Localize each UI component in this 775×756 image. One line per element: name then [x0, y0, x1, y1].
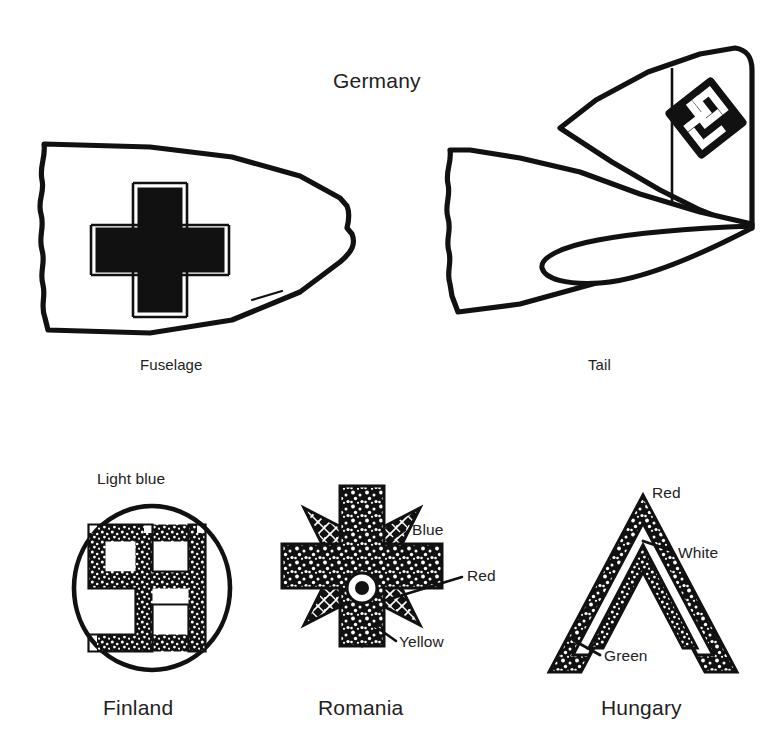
germany-tail-drawing	[447, 48, 752, 312]
germany-fuselage-drawing	[40, 144, 354, 333]
romania-star	[282, 486, 442, 646]
figure-canvas: Germany Fuselage Tail Light blue Finland…	[0, 0, 775, 756]
romania-marking-drawing	[282, 486, 462, 646]
romania-center-dot	[355, 581, 369, 595]
markings-illustration	[0, 0, 775, 756]
hungary-marking-drawing	[549, 495, 737, 672]
finland-marking-drawing	[74, 506, 230, 670]
